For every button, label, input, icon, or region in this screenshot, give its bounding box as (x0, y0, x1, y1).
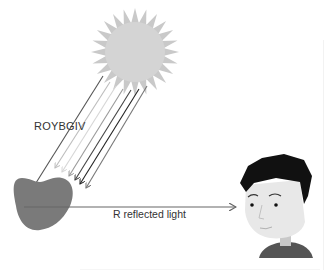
reflected-light-label: R reflected light (113, 208, 186, 220)
person-face-icon (240, 154, 313, 258)
incoming-ray-green (75, 90, 131, 180)
divider (80, 269, 320, 270)
sun-icon (91, 8, 179, 96)
divider (323, 40, 324, 270)
diagram-canvas (0, 0, 327, 276)
light-reflection-diagram: ROYBGIV R reflected light (0, 0, 327, 276)
incoming-ray-indigo (80, 89, 139, 184)
apple-icon (14, 178, 73, 231)
incoming-ray-violet (86, 86, 147, 188)
incoming-light-label: ROYBGIV (34, 120, 86, 132)
